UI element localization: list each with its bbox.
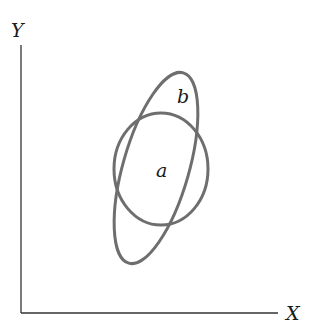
y-axis-label: Y <box>11 19 26 41</box>
diagram-canvas: Y X b a <box>0 0 320 334</box>
shape-a-label: a <box>156 159 167 181</box>
shape-b-label: b <box>177 85 189 107</box>
x-axis-label: X <box>284 302 301 324</box>
